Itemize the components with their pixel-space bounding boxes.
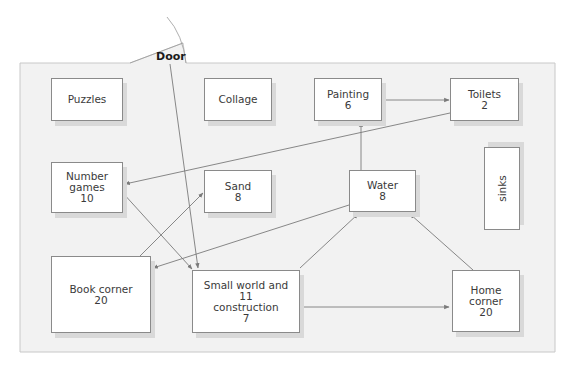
floor-plan-diagram: Door Puzzles Collage Painting 6 Toilets …	[0, 0, 571, 367]
area-toilets: Toilets 2	[450, 78, 519, 121]
door-label: Door	[156, 50, 186, 63]
area-count: 20	[94, 295, 107, 306]
area-count: 8	[379, 191, 386, 202]
area-label: sinks	[497, 175, 508, 202]
area-count: 8	[235, 192, 242, 203]
area-count: 20	[479, 307, 492, 318]
area-count: 6	[345, 100, 352, 111]
area-sand: Sand 8	[204, 170, 272, 213]
area-label: Home	[470, 285, 501, 296]
area-label: Collage	[218, 94, 257, 105]
area-count: 2	[481, 100, 488, 111]
area-label: Small world and	[204, 280, 289, 291]
area-count: 7	[243, 313, 250, 324]
area-book-corner: Book corner 20	[51, 256, 151, 333]
area-label: construction	[213, 302, 278, 313]
area-count: 11	[239, 291, 252, 302]
area-water: Water 8	[349, 170, 416, 212]
area-label: Book corner	[69, 284, 132, 295]
area-count: 10	[80, 193, 93, 204]
area-label: Puzzles	[68, 94, 107, 105]
area-home-corner: Home corner 20	[452, 270, 520, 332]
area-label: Painting	[327, 89, 369, 100]
area-sinks: sinks	[484, 147, 520, 230]
area-number-games: Number games 10	[51, 162, 123, 213]
area-label: Toilets	[468, 89, 501, 100]
area-label: Sand	[225, 181, 251, 192]
area-label: corner	[469, 296, 503, 307]
area-collage: Collage	[204, 78, 272, 121]
area-small-world-construction: Small world and 11 construction 7	[192, 270, 300, 333]
area-puzzles: Puzzles	[51, 78, 123, 121]
area-painting: Painting 6	[314, 78, 382, 121]
